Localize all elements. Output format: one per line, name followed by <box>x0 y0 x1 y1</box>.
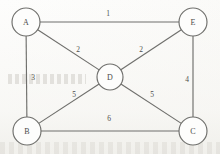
node-label-b: B <box>24 128 29 136</box>
edge-weight-e-c: 4 <box>185 76 189 84</box>
node-label-a: A <box>23 19 29 27</box>
edge-a-b <box>26 36 27 117</box>
node-label-d: D <box>107 74 113 82</box>
edge-weight-a-d: 2 <box>76 46 80 54</box>
edge-weight-b-d: 5 <box>72 91 76 99</box>
edge-a-d <box>38 30 99 70</box>
graph-figure: AEDBC 12234556 <box>0 0 220 154</box>
edge-weight-b-c: 6 <box>107 115 111 123</box>
node-label-c: C <box>190 128 195 136</box>
node-label-e: E <box>191 19 196 27</box>
edge-d-e <box>121 30 181 70</box>
edge-weight-a-b: 3 <box>31 74 35 82</box>
edge-b-d <box>39 84 99 123</box>
edge-weight-a-e: 1 <box>106 10 110 18</box>
edge-weight-d-c: 5 <box>150 91 154 99</box>
edge-weight-d-e: 2 <box>139 46 143 54</box>
